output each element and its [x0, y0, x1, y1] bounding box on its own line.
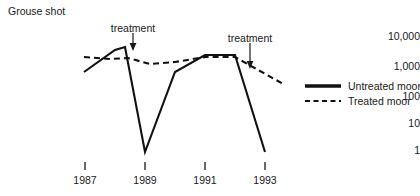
- legend-label-untreated-moor: Untreated moor: [348, 80, 420, 92]
- x-tick-label: 1989: [133, 174, 156, 186]
- legend-label-treated-moor: Treated moor: [348, 95, 411, 107]
- x-tick-label: 1991: [193, 174, 216, 186]
- x-tick-label: 1987: [73, 174, 96, 186]
- annotation-label-treatment: treatment: [111, 22, 155, 34]
- treatment-arrow-icon: [247, 43, 254, 69]
- treatment-arrow-icon: [130, 33, 137, 51]
- x-tick-label: 1993: [253, 174, 276, 186]
- chart-root: Grouse shot 10,000 1,000 100 10 1 1987 1…: [0, 0, 420, 196]
- annotation-label-treatment: treatment: [228, 32, 272, 44]
- series-line-treated-moor: [84, 57, 285, 85]
